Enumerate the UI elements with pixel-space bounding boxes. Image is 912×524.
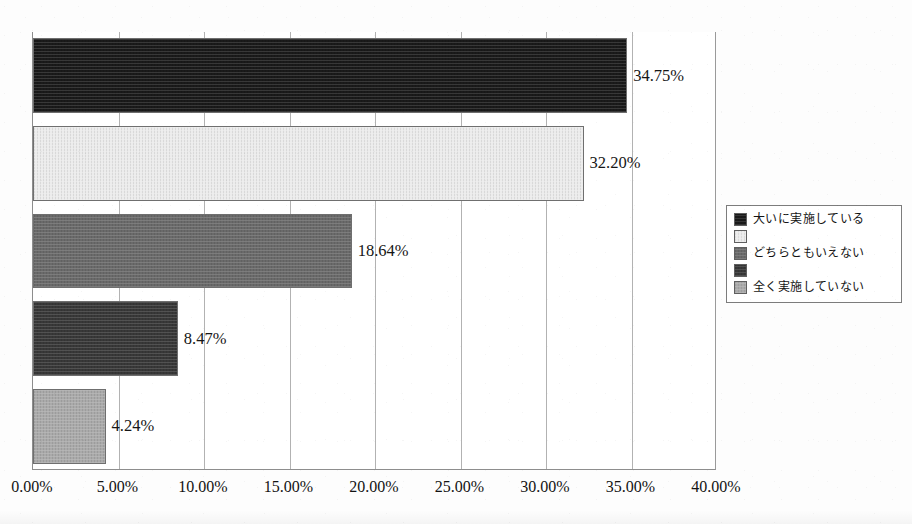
legend-label: 全く実施していない [753, 281, 865, 293]
bar[interactable]: 18.64% [33, 214, 352, 289]
legend-label: どちらともいえない [753, 247, 865, 259]
bar-texture [34, 390, 105, 463]
bar-row: 18.64% [33, 214, 717, 289]
legend-swatch-texture [735, 282, 746, 293]
bar[interactable]: 8.47% [33, 301, 178, 376]
bar[interactable]: 32.20% [33, 126, 584, 201]
bar-value-label: 34.75% [633, 66, 684, 86]
legend-item[interactable]: 全く実施していない [734, 279, 894, 295]
x-tick-label: 5.00% [97, 478, 138, 496]
bar-value-label: 18.64% [358, 241, 409, 261]
legend-swatch [734, 264, 747, 277]
legend-item[interactable] [734, 262, 894, 278]
scan-edge-shading [0, 510, 912, 524]
bar-row: 32.20% [33, 126, 717, 201]
legend-swatch-texture [735, 231, 746, 242]
legend-swatch-texture [735, 265, 746, 276]
legend-item[interactable]: 大いに実施している [734, 211, 894, 227]
bar-texture [34, 215, 351, 288]
scanned-page-canvas: 34.75%32.20%18.64%8.47%4.24% 0.00%5.00%1… [0, 0, 912, 524]
legend-swatch-texture [735, 248, 746, 259]
bar[interactable]: 4.24% [33, 389, 106, 464]
legend-item[interactable]: どちらともいえない [734, 245, 894, 261]
x-tick-label: 15.00% [264, 478, 313, 496]
x-axis-tick-labels: 0.00%5.00%10.00%15.00%20.00%25.00%30.00%… [0, 478, 912, 502]
bar-value-label: 32.20% [590, 153, 641, 173]
x-tick-label: 40.00% [691, 478, 740, 496]
x-tick-label: 20.00% [349, 478, 398, 496]
bar-row: 8.47% [33, 301, 717, 376]
legend-swatch [734, 213, 747, 226]
legend-item[interactable] [734, 228, 894, 244]
plot-area: 34.75%32.20%18.64%8.47%4.24% [32, 32, 716, 470]
bar-row: 34.75% [33, 38, 717, 113]
bar-texture [34, 127, 583, 200]
bar-texture [34, 39, 626, 112]
bar-texture [34, 302, 177, 375]
x-tick-label: 0.00% [11, 478, 52, 496]
chart-legend: 大いに実施しているどちらともいえない全く実施していない [726, 205, 902, 303]
x-tick-label: 30.00% [520, 478, 569, 496]
x-tick-label: 10.00% [178, 478, 227, 496]
legend-swatch [734, 230, 747, 243]
x-tick-label: 25.00% [435, 478, 484, 496]
x-tick-label: 35.00% [606, 478, 655, 496]
bar-value-label: 8.47% [184, 329, 227, 349]
legend-swatch [734, 247, 747, 260]
legend-swatch [734, 281, 747, 294]
bar[interactable]: 34.75% [33, 38, 627, 113]
legend-swatch-texture [735, 214, 746, 225]
bar-row: 4.24% [33, 389, 717, 464]
legend-label: 大いに実施している [753, 213, 865, 225]
bar-value-label: 4.24% [112, 416, 155, 436]
